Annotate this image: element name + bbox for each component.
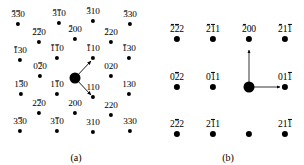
spot-1b10 — [91, 56, 95, 60]
spot-22b2 — [174, 131, 180, 137]
spot-2b00 — [73, 37, 77, 41]
spot-2b11b — [282, 36, 288, 42]
spot-2b11b-label: 211 — [278, 24, 292, 34]
spot-13b0 — [19, 92, 23, 96]
spot-310 — [91, 130, 95, 134]
spot-3b3b0 — [16, 22, 20, 26]
spot-110 — [91, 95, 95, 99]
caption-a: (a) — [0, 152, 152, 163]
spot-211b — [282, 131, 288, 137]
spot-130-label: 130 — [122, 80, 136, 90]
spot-21b1 — [210, 131, 216, 137]
spot-3b30-label: 330 — [123, 10, 137, 20]
spot-01b1-label: 011 — [206, 72, 220, 82]
spot-33b0 — [18, 129, 22, 133]
spot-330-label: 330 — [123, 117, 137, 127]
spot-200 — [73, 111, 77, 115]
spot-22b0 — [37, 111, 41, 115]
spot-2b00 — [246, 36, 252, 42]
spot-1b30r-label: 130 — [122, 44, 136, 54]
spot-02b0 — [38, 74, 42, 78]
spot-1b10-label: 110 — [86, 44, 100, 54]
spot-1b30r — [127, 56, 131, 60]
spot-2b00-label: 200 — [68, 25, 82, 35]
spot-2b11 — [210, 36, 216, 42]
spot-3b10-label: 310 — [86, 7, 100, 17]
spot-1b1b0-label: 110 — [50, 44, 64, 54]
spot-2b11-label: 211 — [206, 24, 220, 34]
spot-000 — [244, 82, 255, 93]
spot-310-label: 310 — [86, 118, 100, 128]
spot-31b0-label: 310 — [50, 117, 64, 127]
spot-2b20-label: 220 — [104, 28, 118, 38]
spot-200-label: 200 — [68, 99, 82, 109]
spot-3b1b0 — [57, 21, 61, 25]
diffraction-figure: 3303103103302202002201301101101300200201… — [0, 0, 304, 165]
spot-13b0-label: 130 — [14, 80, 28, 90]
spot-000 — [70, 73, 81, 84]
spot-1b1b0 — [55, 56, 59, 60]
spot-3b3b0-label: 330 — [11, 10, 25, 20]
spot-1b30-label: 130 — [13, 46, 27, 56]
spot-1b30 — [18, 58, 22, 62]
spot-220-label: 220 — [104, 101, 118, 111]
spot-011b — [282, 84, 288, 90]
spot-11b0-label: 110 — [50, 80, 64, 90]
diffraction-pattern-a: 3303103103302202002201301101101300200201… — [0, 0, 152, 146]
spot-022b-label: 022 — [170, 72, 184, 82]
spot-3b1b0-label: 310 — [52, 9, 66, 19]
spot-2b00-label: 200 — [242, 24, 256, 34]
spot-2b20 — [109, 40, 113, 44]
spot-2b2b0-label: 220 — [32, 28, 46, 38]
spot-020-label: 020 — [104, 62, 118, 72]
spot-22b2-label: 222 — [170, 119, 184, 129]
spot-31b0 — [55, 129, 59, 133]
spot-022b — [174, 84, 180, 90]
spot-01b1 — [210, 84, 216, 90]
spot-011b-label: 011 — [278, 72, 292, 82]
diffraction-pattern-b: 222211200211222022011011022222211211222 — [152, 0, 304, 146]
spot-02b0-label: 020 — [33, 62, 47, 72]
spot-33b0-label: 330 — [13, 117, 27, 127]
spot-21b1-label: 211 — [206, 119, 220, 129]
spot-200u — [246, 131, 252, 137]
caption-b: (b) — [152, 152, 304, 163]
spot-110-label: 110 — [86, 83, 99, 93]
spot-11b0 — [55, 92, 59, 96]
spot-020 — [109, 74, 113, 78]
spot-2b2b2 — [174, 36, 180, 42]
spot-330 — [128, 129, 132, 133]
spot-2b2b2-label: 222 — [170, 24, 184, 34]
panel-b: 222211200211222022011011022222211211222 … — [152, 0, 304, 165]
spot-3b30 — [128, 22, 132, 26]
spot-3b10 — [91, 19, 95, 23]
spot-220 — [109, 113, 113, 117]
panel-a: 3303103103302202002201301101101300200201… — [0, 0, 152, 165]
spot-22b0-label: 220 — [32, 99, 46, 109]
spot-2b2b0 — [37, 40, 41, 44]
spot-130 — [127, 92, 131, 96]
spot-211b-label: 211 — [278, 119, 292, 129]
